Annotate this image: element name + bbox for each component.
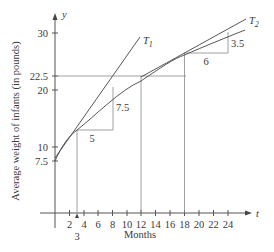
run-label-t1: 5	[89, 133, 94, 144]
x-tick-label: 22	[208, 219, 219, 230]
rise-label-t2: 3.5	[231, 38, 244, 49]
slope-triangle-t1	[77, 87, 113, 130]
x-axis-arrow-icon	[245, 211, 252, 216]
weight-curve	[55, 30, 245, 161]
tangent-t1-label: T1	[143, 35, 153, 49]
y-axis-arrow-icon	[53, 13, 58, 20]
x-axis: t	[40, 208, 260, 219]
svg-text:3: 3	[74, 231, 79, 242]
tangent-t2-label: T2	[249, 15, 259, 29]
x-tick-label: 18	[179, 219, 190, 230]
x-marker-3: 3	[74, 214, 79, 243]
y-tick-label: 30	[38, 28, 49, 39]
x-tick-label: 4	[81, 219, 87, 230]
tangent-t1	[55, 37, 140, 158]
x-axis-symbol: t	[256, 208, 260, 219]
y-tick-label: 22.5	[30, 71, 48, 82]
x-tick-label: 6	[95, 219, 100, 230]
chart-canvas: y t 30 22.5 20 10 7.5 2 4 6 8 10 12 14 1…	[0, 0, 274, 252]
x-axis-title: Months	[124, 229, 156, 240]
y-ticks: 30 22.5 20 10 7.5	[30, 28, 58, 167]
x-tick-label: 16	[165, 219, 176, 230]
rise-label-t1: 7.5	[116, 102, 129, 113]
y-tick-label: 7.5	[35, 156, 48, 167]
marker-triangle-icon	[75, 214, 79, 219]
y-tick-label: 10	[38, 142, 49, 153]
x-tick-label: 2	[67, 219, 72, 230]
x-tick-label: 24	[223, 219, 234, 230]
y-tick-label: 20	[38, 85, 49, 96]
run-label-t2: 6	[203, 56, 208, 67]
y-axis-symbol: y	[61, 9, 67, 20]
x-tick-label: 20	[194, 219, 205, 230]
x-tick-label: 8	[110, 219, 115, 230]
y-axis: y	[53, 9, 68, 228]
y-axis-title: Average weight of infants (in pounds)	[10, 41, 22, 201]
guide-lines	[55, 32, 228, 213]
